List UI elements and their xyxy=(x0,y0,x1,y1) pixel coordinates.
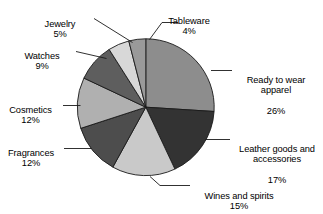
pie-label-leather-goods-percent: 17% xyxy=(231,175,323,186)
pie-label-leather-goods-line2: accessories xyxy=(231,154,323,165)
pie-label-cosmetics-text: Cosmetics xyxy=(9,105,52,115)
pie-label-jewelry-percent: 5% xyxy=(28,29,92,40)
pie-slice-ready-to-wear-apparel[interactable] xyxy=(146,39,214,112)
pie-label-ready-to-wear-line1: Ready to wear xyxy=(247,75,306,85)
pie-label-fragrances-text: Fragrances xyxy=(8,148,54,158)
pie-label-leather-goods: Leather goods and accessories 17% xyxy=(231,133,323,197)
leader-line-wines-and-spirits xyxy=(150,177,190,186)
pie-label-jewelry-text: Jewelry xyxy=(45,19,76,29)
pie-label-fragrances: Fragrances 12% xyxy=(0,137,62,179)
pie-label-watches-percent: 9% xyxy=(10,61,74,72)
pie-label-wines-and-spirits-percent: 15% xyxy=(191,201,287,212)
pie-label-tableware: Tableware 4% xyxy=(153,5,225,47)
pie-chart: Tableware 4% Jewelry 5% Watches 9% Cosme… xyxy=(0,0,323,214)
pie-label-cosmetics-percent: 12% xyxy=(0,115,61,126)
pie-label-ready-to-wear: Ready to wear apparel 26% xyxy=(233,64,319,128)
pie-label-leather-goods-line1: Leather goods and xyxy=(239,144,315,154)
pie-label-watches-text: Watches xyxy=(24,51,59,61)
pie-label-watches: Watches 9% xyxy=(10,40,74,82)
pie-slice-group xyxy=(77,39,214,176)
pie-label-ready-to-wear-percent: 26% xyxy=(233,106,319,117)
pie-label-tableware-percent: 4% xyxy=(153,26,225,37)
pie-label-ready-to-wear-line2: apparel xyxy=(233,85,319,96)
leader-line-jewelry xyxy=(94,19,133,43)
pie-label-cosmetics: Cosmetics 12% xyxy=(0,94,61,136)
pie-label-tableware-text: Tableware xyxy=(168,16,209,26)
pie-label-fragrances-percent: 12% xyxy=(0,158,62,169)
